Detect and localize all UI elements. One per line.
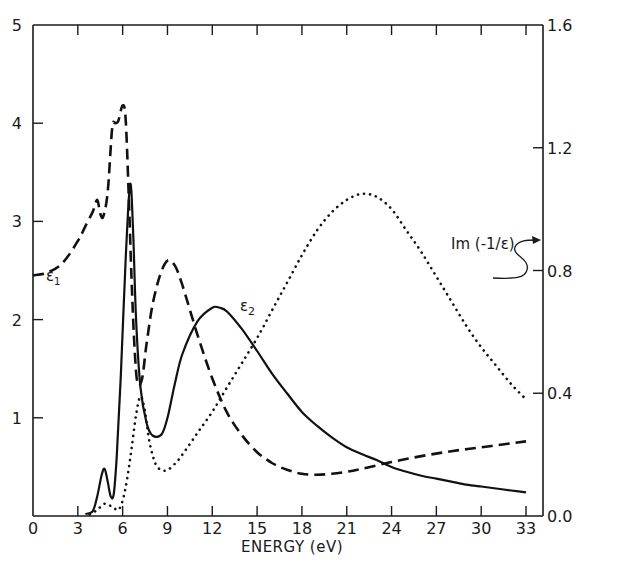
left-tick-label: 4: [12, 114, 22, 133]
right-tick-label: 1.6: [547, 16, 572, 35]
x-tick-label: 30: [471, 519, 491, 538]
dielectric-function-chart: 03691215182124273033 12345 0.00.40.81.21…: [0, 0, 630, 572]
x-axis-ticks: 03691215182124273033: [28, 506, 536, 538]
curve--1: [33, 105, 526, 475]
arrow-head-icon: [532, 236, 541, 244]
x-axis-title: ENERGY (eV): [241, 538, 343, 556]
epsilon1-label: ε1: [46, 267, 60, 287]
x-tick-label: 21: [337, 519, 357, 538]
x-tick-label: 27: [426, 519, 446, 538]
right-tick-label: 0.4: [547, 384, 572, 403]
right-tick-label: 1.2: [547, 139, 572, 158]
left-tick-label: 3: [12, 212, 22, 231]
x-tick-label: 24: [381, 519, 401, 538]
x-tick-label: 3: [73, 519, 83, 538]
right-tick-label: 0.8: [547, 262, 572, 281]
x-tick-label: 33: [516, 519, 536, 538]
curves: [33, 105, 526, 514]
x-tick-label: 6: [118, 519, 128, 538]
left-tick-label: 2: [12, 311, 22, 330]
left-tick-label: 1: [12, 409, 22, 428]
x-tick-label: 9: [162, 519, 172, 538]
plot-frame: [33, 25, 543, 516]
left-tick-label: 5: [12, 16, 22, 35]
x-tick-label: 0: [28, 519, 38, 538]
left-axis-ticks: 12345: [12, 16, 43, 428]
curve--2: [85, 184, 526, 514]
top-axis-ticks: [78, 25, 526, 35]
x-tick-label: 12: [202, 519, 222, 538]
x-tick-label: 18: [292, 519, 312, 538]
right-tick-label: 0.0: [547, 507, 572, 526]
right-axis-ticks: 0.00.40.81.21.6: [533, 16, 572, 526]
loss-function-label: Im (-1/ε): [451, 235, 515, 253]
epsilon2-label: ε2: [240, 297, 255, 318]
x-tick-label: 15: [247, 519, 267, 538]
